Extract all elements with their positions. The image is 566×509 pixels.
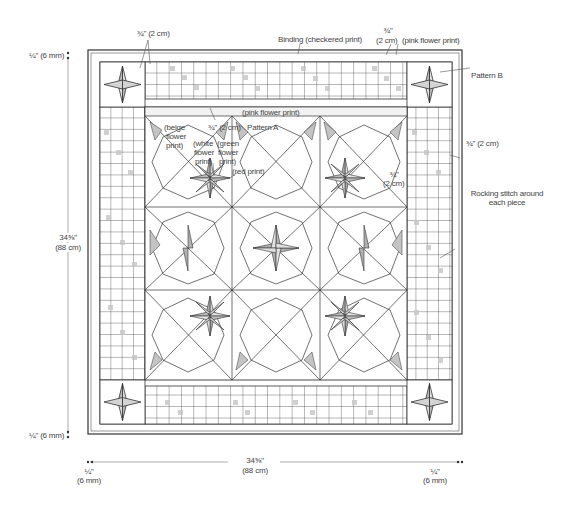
- label-left-height-2: (88 cm): [52, 243, 84, 252]
- label-white-2: flower: [194, 148, 214, 157]
- center-panel-pattern-a: [145, 107, 407, 380]
- label-center-seam-1: ¾": [387, 170, 401, 179]
- label-beige-3: print): [166, 141, 183, 150]
- label-inner-seam: ¾" (2 cm): [208, 123, 241, 132]
- label-bottom-width-1: 34⅝": [239, 456, 271, 465]
- label-red: (red print): [232, 167, 264, 176]
- label-rocking-1: Rocking stitch around: [462, 189, 552, 198]
- label-green-2: flower: [218, 148, 238, 157]
- label-pink-flower-strip: (pink flower print): [242, 108, 300, 117]
- label-pattern-b: Pattern B: [471, 71, 503, 80]
- label-white-1: (white: [193, 139, 213, 148]
- label-green-1: (green: [217, 139, 239, 148]
- label-pink-flower-top: (pink flower print): [402, 36, 460, 45]
- label-beige-1: (beige: [164, 123, 185, 132]
- label-bottom-width-2: (88 cm): [239, 466, 271, 475]
- label-bottom-right-2: (6 mm): [420, 476, 450, 485]
- label-beige-2: flower: [166, 132, 186, 141]
- label-top-right-seam-1: ¾": [381, 26, 395, 35]
- label-top-seam: ¾" (2 cm): [137, 29, 170, 38]
- label-rocking-2: each piece: [462, 198, 552, 207]
- label-bottom-left-2: (6 mm): [74, 476, 104, 485]
- label-center-seam-2: (2 cm): [383, 179, 404, 188]
- label-top-margin: ¼" (6 mm): [29, 51, 64, 60]
- label-pattern-a: Pattern A: [247, 123, 278, 132]
- label-right-seam: ¾" (2 cm): [466, 139, 499, 148]
- label-green-3: print): [219, 157, 236, 166]
- label-top-right-seam-2: (2 cm): [376, 36, 397, 45]
- label-left-height-1: 34⅝": [52, 233, 84, 242]
- label-bottom-left-1: ¼": [74, 467, 104, 476]
- label-bottom-right-1: ¼": [420, 467, 450, 476]
- label-white-3: print): [195, 157, 212, 166]
- label-binding: Binding (checkered print): [278, 35, 362, 44]
- label-bottom-margin: ¼" (6 mm): [29, 431, 64, 440]
